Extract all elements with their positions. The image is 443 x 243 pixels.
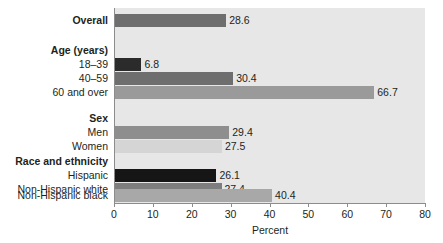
bar — [115, 58, 141, 71]
bar-value-label: 29.4 — [232, 125, 252, 140]
chart-data-row: Men29.4 — [0, 125, 443, 140]
x-tick-label: 10 — [133, 208, 173, 221]
row-label: Age (years) — [0, 43, 108, 58]
x-tick-label: 70 — [366, 208, 406, 221]
row-label: 18–39 — [0, 57, 108, 72]
x-tick-mark — [192, 203, 193, 207]
bar — [115, 189, 272, 202]
row-label: Men — [0, 125, 108, 140]
bar — [115, 140, 222, 153]
x-tick-mark — [425, 203, 426, 207]
x-tick-label: 40 — [250, 208, 290, 221]
bar — [115, 126, 229, 139]
chart-group-row: Age (years) — [0, 43, 443, 58]
bar — [115, 14, 226, 27]
x-tick-mark — [308, 203, 309, 207]
x-tick-label: 60 — [327, 208, 367, 221]
row-label: Women — [0, 139, 108, 154]
bar-chart: Overall28.6Age (years)18–396.840–5930.46… — [0, 0, 443, 243]
bar-value-label: 6.8 — [144, 57, 159, 72]
x-tick-label: 50 — [288, 208, 328, 221]
chart-group-row: Sex — [0, 111, 443, 126]
x-tick-label: 30 — [211, 208, 251, 221]
x-tick-label: 80 — [405, 208, 443, 221]
row-label: Hispanic — [0, 168, 108, 183]
bar-value-label: 40.4 — [275, 188, 295, 203]
chart-data-row: 40–5930.4 — [0, 71, 443, 86]
chart-group-row: Race and ethnicity — [0, 154, 443, 169]
row-label: Non-Hispanic black — [0, 188, 108, 203]
bar-value-label: 30.4 — [236, 71, 256, 86]
bar-value-label: 66.7 — [377, 85, 397, 100]
x-tick-mark — [231, 203, 232, 207]
x-tick-mark — [347, 203, 348, 207]
chart-data-row: Women27.5 — [0, 139, 443, 154]
chart-data-row: Hispanic26.1 — [0, 168, 443, 183]
x-tick-label: 0 — [94, 208, 134, 221]
x-tick-mark — [153, 203, 154, 207]
chart-data-row: 60 and over66.7 — [0, 85, 443, 100]
bar — [115, 169, 216, 182]
bar — [115, 72, 233, 85]
chart-data-row: Non-Hispanic black40.4 — [0, 188, 443, 203]
x-tick-mark — [114, 203, 115, 207]
bar-value-label: 27.5 — [225, 139, 245, 154]
x-axis-title: Percent — [114, 224, 426, 237]
bar-value-label: 26.1 — [219, 168, 239, 183]
row-label: Race and ethnicity — [0, 154, 108, 169]
bar-value-label: 28.6 — [229, 13, 249, 28]
x-tick-label: 20 — [172, 208, 212, 221]
row-label: 40–59 — [0, 71, 108, 86]
row-label: Overall — [0, 13, 108, 28]
row-label: Sex — [0, 111, 108, 126]
row-label: 60 and over — [0, 85, 108, 100]
x-tick-mark — [270, 203, 271, 207]
chart-group-row: Overall28.6 — [0, 13, 443, 28]
chart-data-row: 18–396.8 — [0, 57, 443, 72]
bar — [115, 86, 374, 99]
x-tick-mark — [386, 203, 387, 207]
